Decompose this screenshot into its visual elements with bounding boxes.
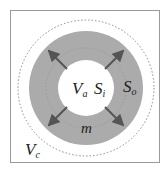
expansion-diagram: Va Si So m Vc <box>0 0 166 172</box>
label-control-volume: Vc <box>25 140 40 160</box>
label-mass: m <box>81 120 92 136</box>
